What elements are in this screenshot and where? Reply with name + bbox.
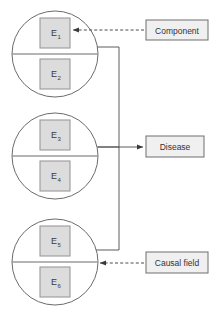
element-box-e4[interactable]: E 4 — [40, 161, 70, 191]
label-text-disease: Disease — [160, 142, 191, 152]
causal-pie-circle-2: E 3 E 4 — [12, 113, 98, 199]
element-label-e3: E — [51, 130, 57, 140]
element-label-e4: E — [51, 171, 57, 181]
element-label-e5: E — [51, 236, 57, 246]
label-box-causal-field[interactable]: Causal field — [146, 252, 208, 273]
element-box-e5[interactable]: E 5 — [40, 226, 70, 256]
element-box-e3[interactable]: E 3 — [40, 120, 70, 150]
causal-pie-circle-1: E 1 E 2 — [12, 11, 98, 97]
causal-pie-circle-3: E 5 E 6 — [12, 219, 98, 305]
element-box-e2[interactable]: E 2 — [40, 59, 70, 89]
element-box-e1[interactable]: E 1 — [40, 18, 70, 48]
element-label-e1: E — [51, 28, 57, 38]
label-box-component[interactable]: Component — [146, 20, 208, 40]
element-box-e6[interactable]: E 6 — [40, 267, 70, 297]
label-box-disease[interactable]: Disease — [146, 136, 204, 157]
element-label-e2: E — [51, 69, 57, 79]
element-label-e6: E — [51, 277, 57, 287]
diagram-canvas: E 1 E 2 E 3 E 4 — [0, 0, 216, 316]
bracket-connector — [96, 47, 119, 250]
causal-pie-diagram: E 1 E 2 E 3 E 4 — [0, 0, 216, 316]
label-text-component: Component — [155, 26, 200, 36]
label-text-causal-field: Causal field — [155, 258, 200, 268]
